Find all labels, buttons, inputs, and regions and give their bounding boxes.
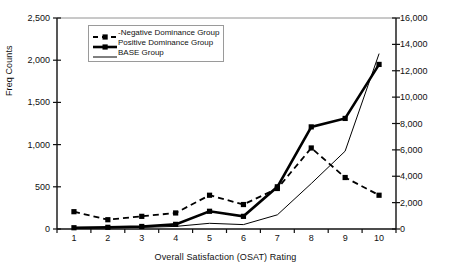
y-axis-left-title: Freq Counts: [4, 45, 14, 96]
x-axis-tick-label: 3: [139, 233, 144, 243]
legend-item: Positive Dominance Group: [92, 38, 219, 48]
legend-item-label: -Negative Dominance Group: [118, 28, 219, 38]
x-axis-tick-label: 6: [241, 233, 246, 243]
legend-key-icon: [92, 38, 118, 48]
legend-item: -Negative Dominance Group: [92, 28, 219, 38]
x-axis-tick-label: 8: [309, 233, 314, 243]
x-axis-tick-label: 5: [207, 233, 212, 243]
chart-legend: -Negative Dominance GroupPositive Domina…: [88, 25, 224, 62]
x-axis-tick-label: 7: [275, 233, 280, 243]
x-axis-tick-label: 4: [173, 233, 178, 243]
x-axis-tick-label: 9: [343, 233, 348, 243]
legend-item-label: Positive Dominance Group: [118, 38, 213, 48]
legend-key-icon: [92, 48, 118, 58]
x-axis-tick-label: 1: [71, 233, 76, 243]
legend-key-icon: [92, 28, 118, 38]
chart-container: 05001,0001,5002,0002,500 02,0004,0006,00…: [0, 0, 451, 276]
legend-item: BASE Group: [92, 48, 219, 58]
x-axis-title: Overall Satisfaction (OSAT) Rating: [0, 252, 451, 262]
legend-item-label: BASE Group: [118, 48, 164, 58]
x-axis-labels: 12345678910: [0, 0, 451, 276]
x-axis-tick-label: 10: [374, 233, 384, 243]
x-axis-tick-label: 2: [105, 233, 110, 243]
